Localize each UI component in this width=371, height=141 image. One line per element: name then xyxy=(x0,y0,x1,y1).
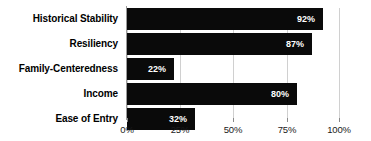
bar-row: 92% xyxy=(127,8,340,30)
bar-historical-stability xyxy=(127,8,323,30)
x-tick-mark-0 xyxy=(127,118,128,122)
x-tick-mark-50 xyxy=(233,118,234,122)
x-axis: 0% 25% 50% 75% 100% xyxy=(127,118,340,141)
category-label-historical-stability: Historical Stability xyxy=(33,8,118,30)
x-tick-mark-75 xyxy=(287,118,288,122)
category-label-ease-of-entry: Ease of Entry xyxy=(55,108,118,130)
bar-value-resiliency: 87% xyxy=(286,33,304,55)
category-label-income: Income xyxy=(84,83,118,105)
x-tick-mark-25 xyxy=(180,118,181,122)
x-tick-label-0: 0% xyxy=(120,124,133,135)
plot-area: 92% 87% 22% 80% 32% xyxy=(127,8,340,118)
x-tick-mark-100 xyxy=(339,118,340,122)
x-tick-label-100: 100% xyxy=(327,124,351,135)
bar-row: 80% xyxy=(127,83,340,105)
bar-chart: Historical Stability Resiliency Family-C… xyxy=(0,0,371,141)
bar-resiliency xyxy=(127,33,312,55)
bar-value-income: 80% xyxy=(271,83,289,105)
category-label-resiliency: Resiliency xyxy=(70,33,118,55)
x-tick-label-25: 25% xyxy=(171,124,189,135)
category-label-family-centeredness: Family-Centeredness xyxy=(19,58,118,80)
bar-value-historical-stability: 92% xyxy=(297,8,315,30)
bar-value-family-centeredness: 22% xyxy=(148,58,166,80)
bar-row: 22% xyxy=(127,58,340,80)
category-axis-labels: Historical Stability Resiliency Family-C… xyxy=(0,8,123,118)
bar-row: 87% xyxy=(127,33,340,55)
x-tick-label-75: 75% xyxy=(278,124,296,135)
x-tick-label-50: 50% xyxy=(224,124,242,135)
